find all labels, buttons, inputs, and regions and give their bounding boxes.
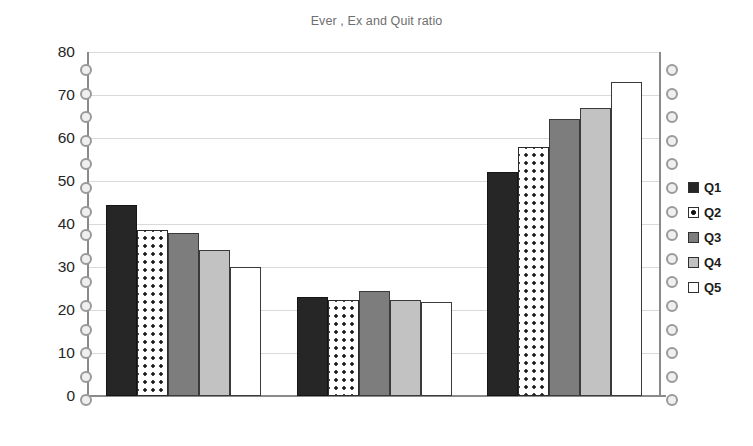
bar-q4-ever [199,250,230,396]
bar-q1-ever [106,205,137,396]
binding-holes-right [664,0,682,446]
bar-q3-quit-ratio [549,119,580,396]
binding-hole-icon [666,276,678,288]
legend-label: Q4 [704,255,721,270]
binding-hole-icon [666,347,678,359]
bar-q4-ex [390,300,421,396]
y-axis-tick-label: 20 [58,301,75,319]
legend-label: Q2 [704,205,721,220]
plot-area: 01020304050607080 EverExQuit ratio [88,52,660,396]
legend-label: Q3 [704,230,721,245]
binding-hole-icon [666,64,678,76]
binding-hole-icon [666,253,678,265]
chart-title: Ever , Ex and Quit ratio [0,14,753,28]
y-axis-tick-label: 60 [58,129,75,147]
legend-item-q4[interactable]: Q4 [688,250,750,275]
y-axis-tick-label: 10 [58,344,75,362]
bar-q1-quit-ratio [487,172,518,396]
binding-hole-icon [666,229,678,241]
bar-q4-quit-ratio [580,108,611,396]
legend-swatch-icon [688,232,699,243]
binding-hole-icon [666,88,678,100]
legend-item-q5[interactable]: Q5 [688,275,750,300]
binding-hole-icon [666,394,678,406]
y-axis-tick-label: 80 [58,43,75,61]
bar-q1-ex [297,297,328,396]
binding-hole-icon [666,135,678,147]
binding-hole-icon [666,206,678,218]
bar-q3-ever [168,233,199,396]
legend-label: Q1 [704,180,721,195]
bar-q3-ex [359,291,390,396]
legend-swatch-icon [688,257,699,268]
y-axis-tick-label: 30 [58,258,75,276]
y-axis-tick-label: 0 [66,387,75,405]
bar-q5-quit-ratio [611,82,642,396]
y-axis-tick-label: 70 [58,86,75,104]
binding-hole-icon [666,182,678,194]
legend-swatch-icon [688,207,699,218]
binding-hole-icon [666,111,678,123]
y-axis-tick-label: 50 [58,172,75,190]
legend-item-q1[interactable]: Q1 [688,175,750,200]
bar-q5-ex [421,302,452,396]
binding-hole-icon [666,158,678,170]
binding-hole-icon [666,300,678,312]
binding-hole-icon [666,324,678,336]
legend: Q1Q2Q3Q4Q5 [688,175,750,300]
bar-q5-ever [230,267,261,396]
legend-label: Q5 [704,280,721,295]
binding-hole-icon [666,371,678,383]
legend-swatch-icon [688,282,699,293]
legend-item-q3[interactable]: Q3 [688,225,750,250]
bar-q2-quit-ratio [518,147,549,396]
legend-swatch-icon [688,182,699,193]
bar-q2-ex [328,300,359,396]
bars-layer [88,52,660,396]
bar-chart: Ever , Ex and Quit ratio 010203040506070… [0,0,753,446]
y-axis-tick-label: 40 [58,215,75,233]
legend-item-q2[interactable]: Q2 [688,200,750,225]
bar-q2-ever [137,230,168,396]
